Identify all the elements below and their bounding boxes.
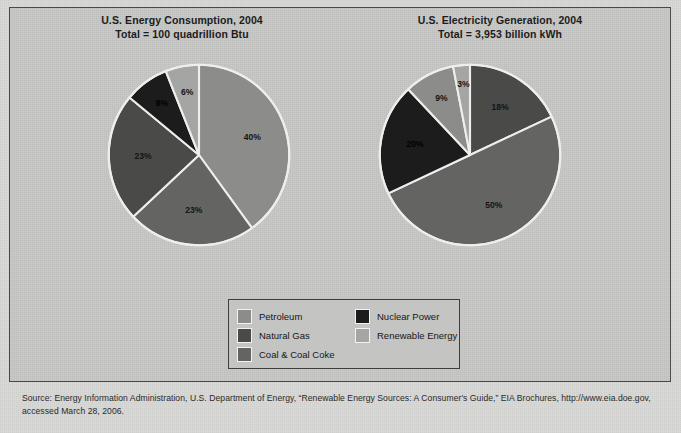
chart-title-left-line2: Total = 100 quadrillion Btu xyxy=(32,28,332,42)
legend: PetroleumNuclear PowerNatural GasRenewab… xyxy=(228,299,460,369)
pie-slice-label: 8% xyxy=(156,98,169,108)
legend-item: Nuclear Power xyxy=(355,307,467,326)
chart-title-right: U.S. Electricity Generation, 2004 Total … xyxy=(350,14,650,41)
legend-swatch-icon xyxy=(237,328,252,343)
legend-item-label: Natural Gas xyxy=(259,330,310,341)
legend-item-label: Nuclear Power xyxy=(377,311,439,322)
legend-item-label: Petroleum xyxy=(259,311,302,322)
legend-item: Natural Gas xyxy=(237,326,355,345)
pie-chart-electricity-generation: 18%50%20%9%3% xyxy=(375,60,565,250)
pie-slice-label: 40% xyxy=(244,132,262,142)
source-line-2: accessed March 28, 2006. xyxy=(22,405,662,418)
pie-slice-label: 9% xyxy=(435,93,448,103)
legend-swatch-icon xyxy=(355,328,370,343)
legend-item: Petroleum xyxy=(237,307,355,326)
pie-slice-label: 6% xyxy=(181,87,194,97)
chart-title-right-line2: Total = 3,953 billion kWh xyxy=(350,28,650,42)
pie-svg-energy-consumption: 40%23%23%8%6% xyxy=(104,60,294,250)
source-line-1: Source: Energy Information Administratio… xyxy=(22,392,662,405)
pie-slice-label: 23% xyxy=(185,205,203,215)
pie-slice-label: 50% xyxy=(485,200,503,210)
pie-slice-label: 18% xyxy=(491,102,509,112)
pie-slice-label: 3% xyxy=(457,79,470,89)
page-background: U.S. Energy Consumption, 2004 Total = 10… xyxy=(0,0,681,433)
legend-item: Coal & Coal Coke xyxy=(237,345,355,364)
pie-slice-label: 20% xyxy=(406,139,424,149)
pie-svg-electricity-generation: 18%50%20%9%3% xyxy=(375,60,565,250)
legend-item-label: Renewable Energy xyxy=(377,330,457,341)
legend-items: PetroleumNuclear PowerNatural GasRenewab… xyxy=(237,307,451,362)
pie-slice-label: 23% xyxy=(134,151,152,161)
legend-swatch-icon xyxy=(355,309,370,324)
chart-title-left-line1: U.S. Energy Consumption, 2004 xyxy=(101,14,263,26)
chart-title-right-line1: U.S. Electricity Generation, 2004 xyxy=(418,14,582,26)
legend-item: Renewable Energy xyxy=(355,326,467,345)
pie-chart-energy-consumption: 40%23%23%8%6% xyxy=(104,60,294,250)
legend-swatch-icon xyxy=(237,309,252,324)
chart-title-left: U.S. Energy Consumption, 2004 Total = 10… xyxy=(32,14,332,41)
legend-item-label: Coal & Coal Coke xyxy=(259,349,335,360)
legend-swatch-icon xyxy=(237,347,252,362)
source-note: Source: Energy Information Administratio… xyxy=(22,392,662,418)
